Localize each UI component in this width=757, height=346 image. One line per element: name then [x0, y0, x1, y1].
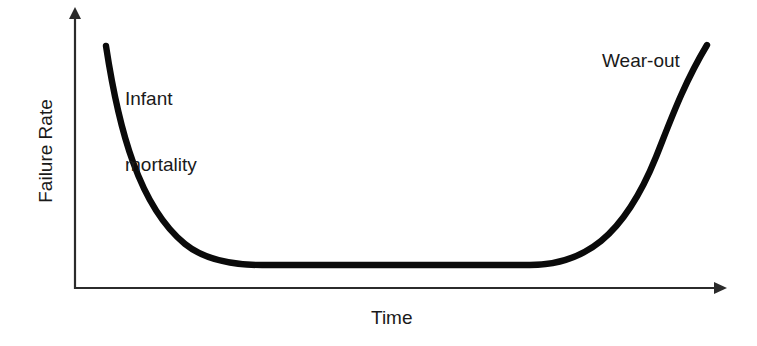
annotation-infant-mortality: Infant mortality	[125, 44, 197, 220]
y-axis-label-container: Failure Rate	[0, 92, 92, 220]
x-axis-label: Time	[371, 307, 413, 329]
x-axis-arrow-icon	[714, 282, 727, 294]
annotation-wear-out: Wear-out	[602, 50, 680, 72]
annotation-infant-mortality-line1: Infant	[125, 88, 197, 110]
annotation-infant-mortality-line2: mortality	[125, 154, 197, 176]
y-axis-arrow-icon	[69, 7, 81, 19]
bathtub-curve-figure: Infant mortality Wear-out Time Failure R…	[0, 0, 757, 346]
y-axis-label: Failure Rate	[35, 83, 57, 219]
